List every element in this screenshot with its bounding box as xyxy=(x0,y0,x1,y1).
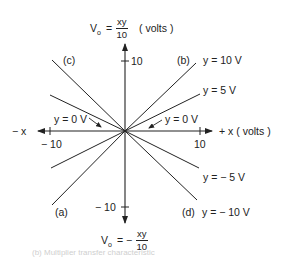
top-formula-v: Vo xyxy=(90,23,101,34)
curve-label-y5: y = 5 V xyxy=(203,85,236,96)
top-formula-equals: = xyxy=(106,23,112,34)
curve-label-yneg10: y = − 10 V xyxy=(202,207,250,218)
bottom-formula-v: Vo xyxy=(101,235,112,246)
x-tick-neg-label: − 10 xyxy=(41,139,62,150)
quadrant-a-label: (a) xyxy=(55,207,68,218)
top-formula-units: ( volts ) xyxy=(139,23,173,34)
quadrant-c-label: (c) xyxy=(63,55,75,66)
x-tick-pos-label: 10 xyxy=(194,139,206,150)
x-pos-label: + x ( volts ) xyxy=(219,126,271,137)
quadrant-b-label: (b) xyxy=(177,55,190,66)
line-yneg5-right xyxy=(125,131,199,168)
y0-left-pointer xyxy=(89,118,101,127)
figure-caption: (b) Multiplier transfer characteristic xyxy=(32,248,155,257)
top-formula-fraction: xy 10 xyxy=(116,17,128,39)
line-a xyxy=(52,131,125,205)
curve-label-y0-left: y = 0 V xyxy=(54,114,87,125)
bottom-numerator: xy xyxy=(136,229,148,241)
curve-label-y10: y = 10 V xyxy=(203,55,242,66)
curve-label-y0-right: y = 0 V xyxy=(165,114,198,125)
line-left-lower xyxy=(51,131,125,168)
y0-right-pointer xyxy=(149,120,162,128)
quadrant-d-label: (d) xyxy=(182,207,195,218)
top-denominator: 10 xyxy=(116,29,127,40)
curve-label-yneg5: y = − 5 V xyxy=(203,172,245,183)
top-numerator: xy xyxy=(116,17,128,29)
line-yneg10-d xyxy=(125,131,197,200)
x-neg-label: − x xyxy=(12,126,26,137)
y-tick-pos-label: 10 xyxy=(131,56,143,67)
bottom-formula-equals: = − xyxy=(117,235,132,246)
y-tick-neg-label: − 10 xyxy=(95,202,116,213)
